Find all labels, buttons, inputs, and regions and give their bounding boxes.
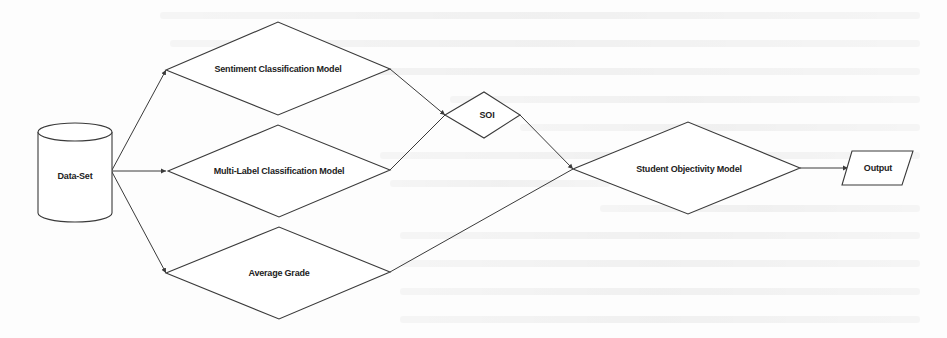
sentiment-label: Sentiment Classification Model xyxy=(214,64,341,74)
multilabel-label: Multi-Label Classification Model xyxy=(214,166,345,176)
edge-dataset-to-average-grade xyxy=(112,172,166,273)
edge-multilabel-to-soi xyxy=(390,115,445,170)
edge-average-grade-to-student-objectivity xyxy=(390,169,573,272)
diagram-canvas: Data-Set Sentiment Classification Model … xyxy=(0,0,947,338)
edge-sentiment-to-soi xyxy=(390,69,445,115)
soi-label: SOI xyxy=(480,110,495,120)
edge-soi-to-student-objectivity xyxy=(520,115,573,169)
output-label: Output xyxy=(864,163,892,173)
flowchart xyxy=(0,0,947,338)
dataset-label: Data-Set xyxy=(58,171,93,181)
edge-dataset-to-sentiment xyxy=(112,70,166,170)
student-objectivity-label: Student Objectivity Model xyxy=(636,164,742,174)
average-grade-label: Average Grade xyxy=(248,268,309,278)
